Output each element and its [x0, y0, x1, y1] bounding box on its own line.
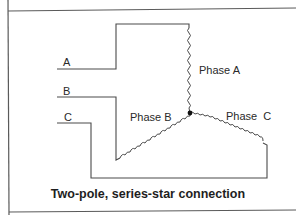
star-junction-dot — [188, 111, 193, 116]
terminal-label-b: B — [63, 86, 70, 97]
terminal-label-c: C — [64, 112, 72, 123]
coil-phase-a — [188, 28, 191, 113]
frame-top-line — [8, 8, 296, 11]
frame — [8, 0, 296, 215]
frame-left-line — [8, 0, 9, 215]
terminal-label-a: A — [63, 57, 70, 68]
wiring-diagram — [0, 0, 296, 215]
frame-bottom-line — [9, 210, 296, 212]
wire-b — [57, 97, 120, 160]
winding-label-phase-a: Phase A — [199, 65, 240, 76]
diagram-caption: Two-pole, series-star connection — [0, 188, 296, 201]
wire-a — [57, 24, 189, 69]
winding-label-phase-c: Phase C — [226, 111, 271, 122]
winding-label-phase-b: Phase B — [130, 112, 172, 123]
